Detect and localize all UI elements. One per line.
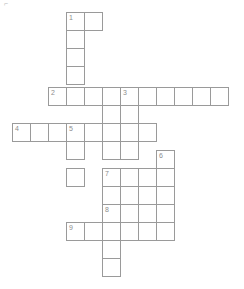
crossword-cell[interactable] bbox=[156, 186, 175, 205]
crossword-cell[interactable] bbox=[102, 186, 121, 205]
crossword-cell[interactable] bbox=[102, 141, 121, 160]
crossword-cell[interactable] bbox=[66, 141, 85, 160]
crossword-cell-numbered[interactable]: 1 bbox=[66, 12, 85, 31]
crossword-cell[interactable] bbox=[138, 204, 157, 223]
crossword-cell[interactable] bbox=[102, 258, 121, 277]
crossword-cell[interactable] bbox=[84, 12, 103, 31]
crossword-cell[interactable] bbox=[120, 222, 139, 241]
crossword-cell[interactable] bbox=[84, 123, 103, 142]
crossword-puzzle-grid[interactable]: ⌐ 123456789 bbox=[0, 0, 244, 289]
crossword-cell[interactable] bbox=[84, 87, 103, 106]
crossword-cell-numbered[interactable]: 4 bbox=[12, 123, 31, 142]
crossword-cell-numbered[interactable]: 8 bbox=[102, 204, 121, 223]
crossword-cell[interactable] bbox=[102, 240, 121, 259]
crossword-cell[interactable] bbox=[66, 87, 85, 106]
top-left-mark: ⌐ bbox=[4, 0, 8, 7]
crossword-cell[interactable] bbox=[120, 168, 139, 187]
cell-clue-number: 6 bbox=[159, 151, 163, 160]
crossword-cell[interactable] bbox=[102, 123, 121, 142]
crossword-cell[interactable] bbox=[174, 87, 193, 106]
crossword-cell[interactable] bbox=[48, 123, 67, 142]
cell-clue-number: 1 bbox=[69, 13, 73, 22]
crossword-cell[interactable] bbox=[210, 87, 229, 106]
crossword-cell[interactable] bbox=[156, 204, 175, 223]
cell-clue-number: 2 bbox=[51, 88, 55, 97]
crossword-cell[interactable] bbox=[66, 30, 85, 49]
crossword-cell[interactable] bbox=[66, 66, 85, 85]
crossword-cell-numbered[interactable]: 3 bbox=[120, 87, 139, 106]
crossword-cell[interactable] bbox=[138, 87, 157, 106]
crossword-cell[interactable] bbox=[156, 168, 175, 187]
crossword-cell[interactable] bbox=[84, 222, 103, 241]
crossword-cell[interactable] bbox=[102, 105, 121, 124]
cell-clue-number: 3 bbox=[123, 88, 127, 97]
crossword-cell[interactable] bbox=[120, 186, 139, 205]
crossword-cell[interactable] bbox=[102, 222, 121, 241]
crossword-cell[interactable] bbox=[30, 123, 49, 142]
cell-clue-number: 7 bbox=[105, 169, 109, 178]
crossword-cell[interactable] bbox=[66, 168, 85, 187]
crossword-cell[interactable] bbox=[192, 87, 211, 106]
cell-clue-number: 8 bbox=[105, 205, 109, 214]
cell-clue-number: 5 bbox=[69, 124, 73, 133]
crossword-cell-numbered[interactable]: 7 bbox=[102, 168, 121, 187]
crossword-cell[interactable] bbox=[120, 105, 139, 124]
crossword-cell[interactable] bbox=[120, 141, 139, 160]
crossword-cell-numbered[interactable]: 6 bbox=[156, 150, 175, 169]
crossword-cell[interactable] bbox=[66, 48, 85, 67]
crossword-cell[interactable] bbox=[120, 204, 139, 223]
crossword-cell-numbered[interactable]: 9 bbox=[66, 222, 85, 241]
crossword-cell[interactable] bbox=[138, 222, 157, 241]
crossword-cell[interactable] bbox=[138, 168, 157, 187]
crossword-cell-numbered[interactable]: 2 bbox=[48, 87, 67, 106]
crossword-cell[interactable] bbox=[120, 123, 139, 142]
crossword-cell[interactable] bbox=[156, 87, 175, 106]
crossword-cell-numbered[interactable]: 5 bbox=[66, 123, 85, 142]
crossword-cell[interactable] bbox=[102, 87, 121, 106]
crossword-cell[interactable] bbox=[138, 123, 157, 142]
crossword-cell[interactable] bbox=[156, 222, 175, 241]
cell-clue-number: 4 bbox=[15, 124, 19, 133]
cell-clue-number: 9 bbox=[69, 223, 73, 232]
